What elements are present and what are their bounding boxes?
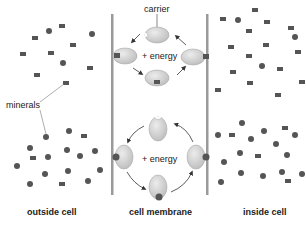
bottom-transport-cycle: + energy	[113, 117, 210, 201]
carrier-label: carrier	[144, 4, 170, 14]
top-transport-cycle: carrier + energy	[113, 4, 209, 86]
carrier-right	[181, 49, 205, 65]
carrier-top	[149, 117, 167, 141]
active-transport-diagram: carrier + energy + ene	[0, 0, 306, 225]
inside-cell-label: inside cell	[243, 207, 287, 217]
mineral-round	[203, 154, 210, 161]
arrow-icon	[175, 124, 193, 142]
arrow-icon	[132, 34, 140, 42]
arrow-icon	[177, 67, 185, 75]
energy-label-top: + energy	[142, 51, 178, 61]
arrow-icon	[127, 172, 145, 189]
carrier-right	[187, 145, 205, 169]
mineral-square	[203, 54, 209, 59]
membrane-left-line	[111, 14, 114, 195]
cell-membrane-label: cell membrane	[129, 207, 192, 217]
carrier-top	[145, 27, 169, 43]
mineral-round	[113, 154, 120, 161]
arrow-icon	[171, 172, 192, 192]
mineral-square	[154, 80, 160, 84]
arrow-icon	[133, 68, 142, 74]
outside-cell-label: outside cell	[27, 207, 77, 217]
arrow-icon	[128, 126, 144, 142]
minerals-pointer-bottom	[40, 110, 46, 134]
energy-label-bottom: + energy	[142, 154, 178, 164]
mineral-round	[156, 194, 163, 201]
inside-minerals	[215, 8, 305, 185]
membrane-right-line	[206, 14, 209, 195]
arrow-icon	[176, 36, 186, 45]
mineral-square	[114, 53, 120, 58]
minerals-pointer-top	[40, 84, 64, 102]
minerals-label: minerals	[6, 100, 41, 110]
